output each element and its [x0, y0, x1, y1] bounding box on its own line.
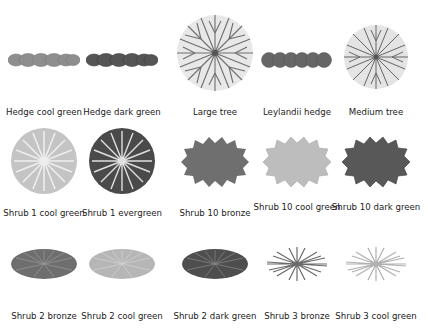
shrub-2-dark-green-icon: [172, 244, 258, 284]
leylandii-hedge-icon: [254, 40, 340, 80]
shrub-10-bronze-icon: [172, 134, 258, 190]
symbol-label: Medium tree: [329, 107, 423, 118]
symbol-label: Shrub 10 bronze: [168, 208, 262, 219]
symbol-label: Shrub 10 dark green: [329, 202, 423, 213]
hedge-cool-green-icon: [1, 40, 87, 80]
shrub-10-cool-green-icon: [254, 134, 340, 190]
symbol-label: Shrub 2 dark green: [168, 311, 262, 322]
symbol-label: Large tree: [168, 107, 262, 118]
shrub-3-bronze-icon: [254, 244, 340, 284]
large-tree-icon: [172, 10, 258, 96]
shrub-2-cool-green-icon: [79, 244, 165, 284]
shrub-2-bronze-icon: [1, 244, 87, 284]
symbol-label: Shrub 2 cool green: [75, 311, 169, 322]
shrub-10-dark-green-icon: [333, 134, 419, 190]
shrub-1-cool-green-icon: [1, 126, 87, 196]
shrub-1-evergreen-icon: [79, 126, 165, 196]
medium-tree-icon: [333, 20, 419, 94]
symbol-label: Hedge dark green: [75, 107, 169, 118]
symbol-label: Shrub 1 evergreen: [75, 208, 169, 219]
symbol-label: Shrub 3 cool green: [329, 311, 423, 322]
hedge-dark-green-icon: [79, 40, 165, 80]
plant-symbol-palette: Hedge cool green Hedge dark green Large …: [0, 0, 428, 329]
shrub-3-cool-green-icon: [333, 244, 419, 284]
